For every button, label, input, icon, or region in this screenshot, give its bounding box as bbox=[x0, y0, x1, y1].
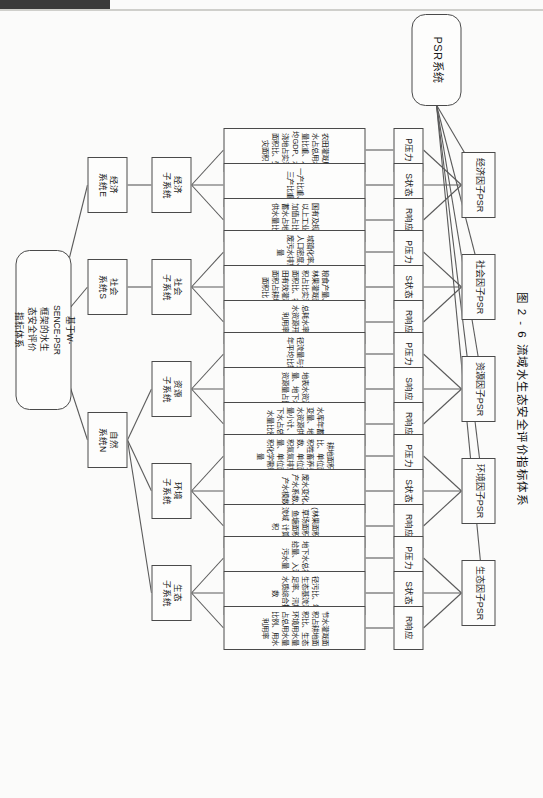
factor-node-ecology[interactable]: 生态因子PSR bbox=[461, 560, 495, 626]
root-node-psr-system[interactable]: PSR系统 bbox=[411, 14, 461, 106]
subsystem-node-resource[interactable]: 资源 子系统 bbox=[151, 361, 191, 417]
subsystem-node-economy[interactable]: 经济 子系统 bbox=[151, 157, 191, 213]
subsystem-node-society[interactable]: 社会 子系统 bbox=[151, 259, 191, 315]
factor-node-resource[interactable]: 资源因子PSR bbox=[461, 356, 495, 422]
indicator-node-ecology-r[interactable]: 节水灌溉面积占耕地面积比、生态环境用水量 占总用水量比例、用水利用率 bbox=[223, 606, 365, 650]
factor-node-society[interactable]: 社会因子PSR bbox=[461, 254, 495, 320]
system-node-nature-n[interactable]: 自然 系统N bbox=[87, 412, 127, 468]
subsystem-node-environment[interactable]: 环境 子系统 bbox=[151, 463, 191, 519]
figure-caption: 图 2 - 6 流域水生态安全评价指标体系 bbox=[515, 292, 531, 507]
flowchart-figure: PSR系统 经济因子PSR 社会因子PSR 资源因子PSR 环境因子PSR 生态… bbox=[0, 0, 543, 798]
system-node-society-s[interactable]: 社会 系统S bbox=[87, 259, 127, 315]
framework-node[interactable]: 基于W- SENCE-PSR 框架的水生 态安全评价 指标体系 bbox=[15, 250, 71, 410]
psr-node-ecology-r[interactable]: R响应 bbox=[393, 606, 423, 650]
factor-node-environment[interactable]: 环境因子PSR bbox=[461, 458, 495, 524]
system-node-economy-e[interactable]: 经济 系统E bbox=[87, 157, 127, 213]
factor-node-economy[interactable]: 经济因子PSR bbox=[461, 152, 495, 218]
subsystem-node-ecology[interactable]: 生态 子系统 bbox=[151, 565, 191, 621]
figure-caption-container: 图 2 - 6 流域水生态安全评价指标体系 bbox=[503, 0, 543, 798]
